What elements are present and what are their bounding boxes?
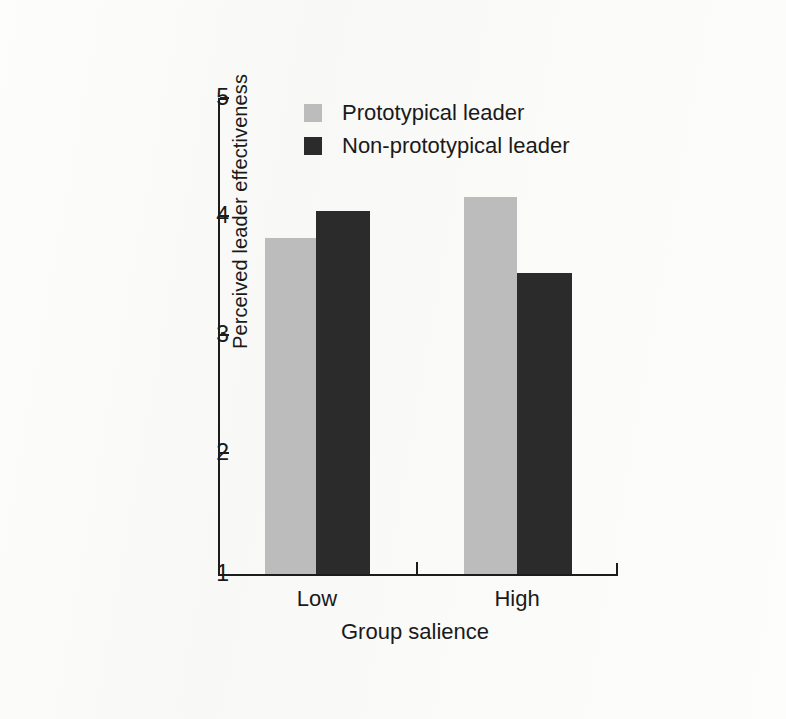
legend-item-prototypical: Prototypical leader — [304, 96, 569, 129]
bar-chart: 5 4 3 2 1 Perceived leader effectiveness… — [0, 0, 786, 719]
legend-label-prototypical: Prototypical leader — [342, 102, 524, 124]
x-axis-line — [218, 574, 618, 576]
bars-layer — [0, 0, 786, 574]
x-category-label-high: High — [437, 586, 597, 612]
legend-swatch-nonprototypical — [304, 137, 322, 155]
chart-legend: Prototypical leader Non-prototypical lea… — [304, 96, 569, 162]
bar-high-prototypical — [464, 197, 517, 574]
x-category-label-low: Low — [237, 586, 397, 612]
x-axis-title: Group salience — [255, 619, 575, 645]
bar-low-prototypical — [265, 238, 316, 574]
legend-swatch-prototypical — [304, 104, 322, 122]
legend-item-nonprototypical: Non-prototypical leader — [304, 129, 569, 162]
legend-label-nonprototypical: Non-prototypical leader — [342, 135, 569, 157]
bar-high-nonprototypical — [517, 273, 572, 574]
chart-page: 5 4 3 2 1 Perceived leader effectiveness… — [0, 0, 786, 719]
y-axis-title: Perceived leader effectiveness — [229, 72, 252, 352]
bar-low-nonprototypical — [316, 211, 370, 574]
